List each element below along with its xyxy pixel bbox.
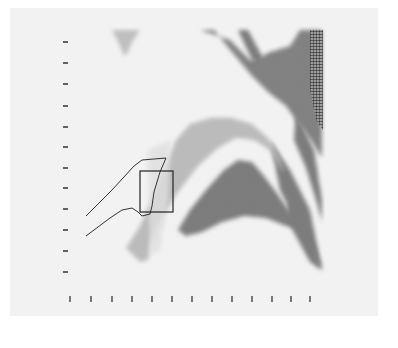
top-left-blob (112, 30, 140, 56)
x-axis-ticks (70, 296, 310, 302)
figure (0, 0, 398, 348)
y-axis-ticks (63, 42, 68, 272)
halftone-plot (0, 0, 398, 348)
